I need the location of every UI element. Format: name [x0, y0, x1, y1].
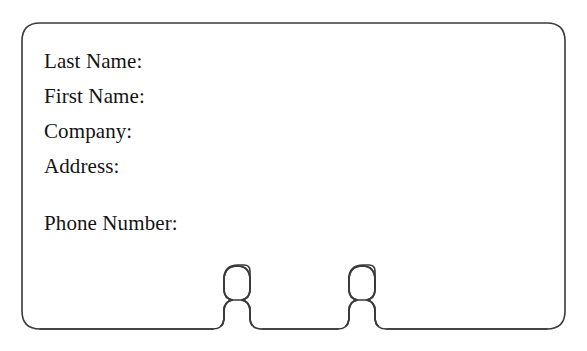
field-row-company: Company: [44, 114, 464, 149]
field-label-last-name: Last Name: [44, 49, 142, 73]
right-tab-outline [338, 266, 386, 329]
screenshot-root: Last Name: First Name: Company: Address:… [0, 0, 587, 351]
field-row-address: Address: [44, 149, 464, 184]
right-tab-outline-top [338, 266, 386, 329]
field-label-phone-number: Phone Number: [44, 211, 178, 235]
field-row-phone-number: Phone Number: [44, 206, 464, 241]
field-label-address: Address: [44, 154, 119, 178]
field-row-first-name: First Name: [44, 79, 464, 114]
field-label-company: Company: [44, 119, 132, 143]
field-label-first-name: First Name: [44, 84, 145, 108]
left-tab-outline [213, 266, 261, 329]
field-label-list: Last Name: First Name: Company: Address:… [44, 44, 464, 241]
field-row-last-name: Last Name: [44, 44, 464, 79]
left-tab-outline-top [213, 266, 261, 329]
